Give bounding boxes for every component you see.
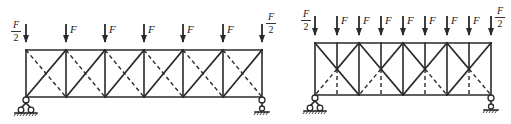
left-load-label: F: [227, 24, 234, 35]
right-load-label: F: [363, 15, 370, 26]
right-load-label: F: [451, 15, 458, 26]
right-main-verticals: [315, 43, 491, 95]
left-verticals: [26, 50, 262, 97]
left-truss-pin-support-icon: [14, 97, 37, 116]
left-load-label: F: [148, 24, 155, 35]
right-load-label: F: [341, 15, 348, 26]
left-load-label: F: [70, 24, 77, 35]
right-load-label: F: [385, 15, 392, 26]
right-load-label: F: [407, 15, 414, 26]
right-load-label: F: [429, 15, 436, 26]
right-truss-pin-support-icon: [303, 95, 326, 114]
left-end-load-label: F 2: [301, 9, 311, 32]
right-truss: [303, 16, 498, 114]
left-truss-roller-support-icon: [254, 97, 269, 115]
left-end-load-label: F 2: [11, 20, 21, 43]
right-load-label: F: [473, 15, 480, 26]
left-load-label: F: [187, 24, 194, 35]
left-truss: [14, 24, 269, 116]
left-load-label: F: [109, 24, 116, 35]
right-end-load-label: F 2: [495, 6, 505, 29]
right-truss-roller-support-icon: [483, 95, 498, 113]
right-end-load-label: F 2: [266, 12, 276, 35]
